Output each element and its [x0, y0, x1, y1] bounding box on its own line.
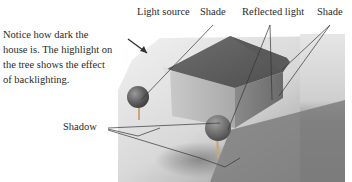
label-shadow: Shadow — [63, 121, 97, 132]
label-shade-right: Shade — [317, 6, 343, 17]
label-reflected-light: Reflected light — [242, 6, 304, 17]
label-shade-left: Shade — [200, 6, 226, 17]
caption-text: Notice how dark the house is. The highli… — [3, 27, 113, 87]
label-light-source: Light source — [137, 6, 190, 17]
